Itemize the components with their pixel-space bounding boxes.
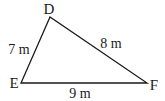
vertex-label-f: F [150, 77, 158, 93]
triangle-def [21, 17, 147, 83]
triangle-diagram: D E F 7 m 8 m 9 m [0, 0, 165, 101]
side-label-df: 8 m [100, 36, 122, 51]
vertex-label-e: E [9, 75, 18, 91]
vertex-label-d: D [44, 1, 55, 17]
side-label-de: 7 m [8, 42, 30, 57]
side-label-ef: 9 m [69, 86, 91, 101]
